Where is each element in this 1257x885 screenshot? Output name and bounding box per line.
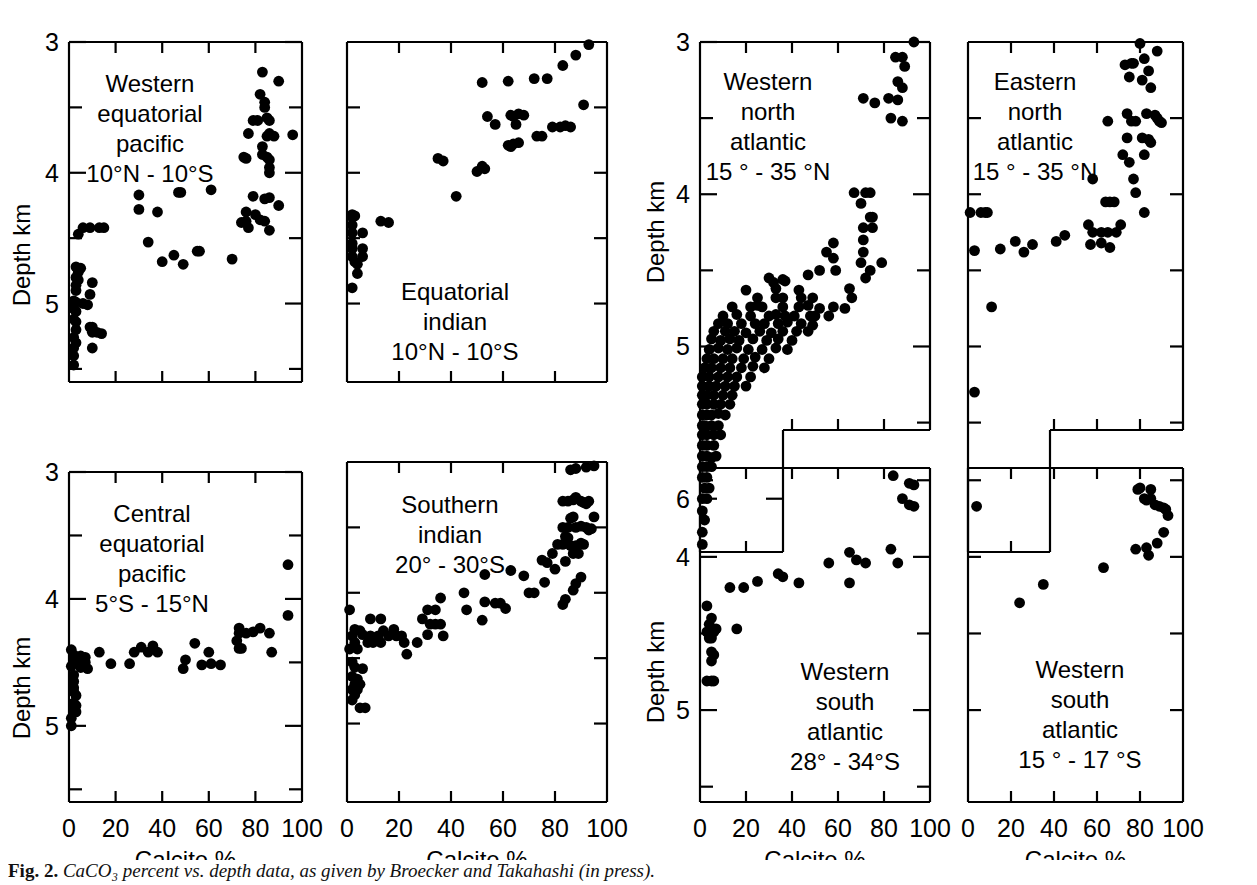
data-point (727, 390, 738, 401)
data-points (347, 39, 594, 293)
data-point (430, 604, 441, 615)
data-point (578, 539, 589, 550)
data-point (1124, 72, 1135, 83)
data-point (99, 222, 110, 233)
panel-label: Westernsouthatlantic15 ° - 17 °S (1018, 656, 1141, 773)
data-point (856, 257, 867, 268)
panel-label: Westernequatorialpacific10°N - 10°S (86, 70, 213, 187)
x-tick-label: 100 (281, 814, 323, 842)
figure-caption-text: CaCO₃ percent vs. depth data, as given b… (63, 860, 655, 881)
data-point (482, 111, 493, 122)
data-point (741, 381, 752, 392)
y-tick-label: 4 (676, 543, 690, 571)
data-point (412, 637, 423, 648)
data-point (965, 207, 976, 218)
data-point (715, 429, 726, 440)
panel-western-south-atlantic-15-17: Westernsouthatlantic15 ° - 17 °S02040608… (961, 468, 1204, 860)
data-point (782, 317, 793, 328)
data-point (846, 292, 857, 303)
panel-label-line: pacific (118, 560, 186, 587)
data-points (702, 470, 920, 686)
data-point (715, 362, 726, 373)
data-point (347, 695, 358, 706)
data-point (706, 362, 717, 373)
data-point (851, 555, 862, 566)
data-point (771, 283, 782, 294)
data-point (867, 222, 878, 233)
data-point (269, 131, 280, 142)
panel-label-line: north (741, 98, 796, 125)
data-point (1014, 597, 1025, 608)
x-tick-label: 60 (489, 814, 517, 842)
data-point (803, 270, 814, 281)
data-point (708, 676, 719, 687)
panel-label-line: Equatorial (401, 278, 509, 305)
data-point (287, 129, 298, 140)
data-point (759, 362, 770, 373)
data-point (511, 119, 522, 130)
data-point (215, 660, 226, 671)
data-point (500, 603, 511, 614)
data-point (461, 604, 472, 615)
data-point (479, 597, 490, 608)
data-point (157, 256, 168, 267)
data-point (1139, 53, 1150, 64)
data-point (283, 559, 294, 570)
data-point (529, 587, 540, 598)
data-point (583, 496, 594, 507)
data-point (1143, 550, 1154, 561)
data-point (757, 302, 768, 313)
data-point (196, 660, 207, 671)
data-point (745, 372, 756, 383)
panel-label-line: 15 ° - 17 °S (1018, 746, 1141, 773)
data-point (720, 410, 731, 421)
data-point (505, 141, 516, 152)
data-point (883, 93, 894, 104)
data-point (1098, 562, 1109, 573)
data-point (810, 311, 821, 322)
data-point (814, 265, 825, 276)
data-point (856, 198, 867, 209)
data-point (704, 483, 715, 494)
data-point (865, 187, 876, 198)
data-point (892, 95, 903, 106)
data-point (711, 381, 722, 392)
data-point (550, 564, 561, 575)
data-point (840, 303, 851, 314)
y-tick-label: 5 (676, 332, 690, 360)
data-point (1139, 149, 1150, 160)
data-point (539, 577, 550, 588)
data-point (1128, 58, 1139, 69)
panel-label-line: atlantic (730, 128, 806, 155)
y-tick-label: 3 (45, 458, 59, 486)
panel-southern-indian: Southernindian20° - 30°S020406080100Calc… (340, 461, 628, 861)
data-point (283, 610, 294, 621)
data-point (352, 644, 363, 655)
data-point (897, 82, 908, 93)
data-point (771, 343, 782, 354)
panel-equatorial-indian: Equatorialindian10°N - 10°S (347, 39, 607, 382)
data-point (704, 372, 715, 383)
data-point (1102, 116, 1113, 127)
data-point (227, 254, 238, 265)
x-tick-label: 0 (693, 814, 707, 842)
panel-label-line: equatorial (97, 100, 202, 127)
data-point (738, 582, 749, 593)
y-tick-label: 4 (45, 585, 59, 613)
x-tick-label: 100 (1162, 814, 1204, 842)
data-point (780, 276, 791, 287)
y-axis-title: Depth km (642, 621, 669, 724)
data-point (982, 207, 993, 218)
panel-label-line: Western (724, 68, 813, 95)
data-point (542, 73, 553, 84)
data-point (75, 263, 86, 274)
panel-central-equatorial-pacific: 345Centralequatorialpacific5°S - 15°N020… (45, 458, 323, 860)
data-point (1124, 157, 1135, 168)
data-point (383, 217, 394, 228)
panel-label-line: 20° - 30°S (395, 551, 505, 578)
panel-label-line: atlantic (807, 718, 883, 745)
y-tick-label: 4 (676, 180, 690, 208)
data-point (82, 663, 93, 674)
data-point (365, 614, 376, 625)
data-point (129, 647, 140, 658)
